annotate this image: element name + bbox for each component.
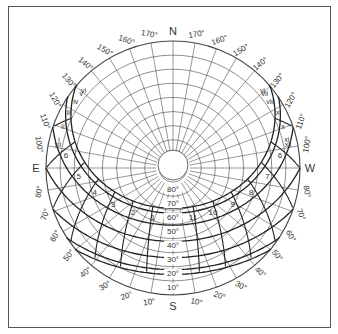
altitude-label: 40° [167, 241, 179, 250]
altitude-label: 50° [167, 227, 179, 236]
azimuth-label: 70° [39, 207, 52, 221]
month-label: ix [275, 109, 281, 116]
hour-label: 5 [76, 172, 81, 181]
azimuth-label: 170° [188, 28, 206, 40]
azimuth-label: 30° [98, 279, 113, 293]
azimuth-label: 130° [268, 71, 286, 89]
altitude-label: 30° [167, 255, 179, 264]
azimuth-label: 10° [143, 296, 156, 307]
azimuth-label: 60° [48, 229, 62, 244]
month-label: ii [61, 123, 65, 130]
south-label: S [169, 300, 176, 312]
azimuth-label: 50° [61, 248, 76, 263]
azimuth-label: 120° [47, 91, 63, 110]
azimuth-label: 80° [34, 185, 45, 198]
hour-label: 1 [151, 213, 156, 222]
month-label: x [281, 123, 285, 130]
altitude-label: 80° [167, 185, 179, 194]
altitude-label: 60° [167, 213, 179, 222]
hour-label: 10 [209, 208, 218, 217]
hour-label: 11 [189, 213, 198, 222]
hour-label: 2 [131, 208, 136, 217]
hour-label: 9 [230, 200, 235, 209]
month-label: iii [67, 109, 72, 116]
azimuth-label: 150° [232, 42, 251, 58]
sun-path-diagram: NSEW170°160°150°140°130°120°110°100°170°… [0, 0, 338, 334]
azimuth-label: 50° [270, 248, 285, 263]
north-label: N [169, 25, 177, 37]
hour-label: 3 [111, 200, 116, 209]
azimuth-label: 120° [283, 91, 299, 110]
azimuth-label: 80° [301, 185, 312, 198]
azimuth-label: 40° [78, 265, 93, 280]
azimuth-label: 170° [140, 28, 158, 40]
azimuth-label: 160° [210, 33, 229, 47]
azimuth-label: 110° [294, 112, 308, 130]
azimuth-label: 10° [190, 296, 203, 307]
azimuth-label: 100° [33, 135, 45, 153]
hour-label: 6 [64, 151, 69, 160]
hour-label: 7 [265, 172, 270, 181]
azimuth-label: 100° [301, 135, 313, 153]
azimuth-label: 20° [212, 289, 226, 302]
hour-label: 6 [278, 151, 283, 160]
hour-label: 8 [249, 188, 254, 197]
month-label: iv [73, 98, 79, 105]
east-label: E [32, 162, 39, 174]
azimuth-label: 40° [253, 265, 268, 280]
azimuth-label: 150° [96, 42, 115, 58]
month-label: viii [266, 98, 275, 105]
azimuth-label: 20° [119, 289, 133, 302]
altitude-label: 70° [167, 199, 179, 208]
altitude-label: 10° [167, 283, 179, 292]
month-label: vii [261, 90, 268, 97]
azimuth-label: 160° [117, 33, 136, 47]
west-label: W [305, 162, 316, 174]
azimuth-label: 60° [284, 229, 298, 244]
azimuth-label: 70° [294, 207, 307, 221]
azimuth-label: 30° [234, 279, 249, 293]
azimuth-label: 140° [251, 55, 269, 73]
zenith-circle [158, 150, 188, 180]
hour-label: 4 [93, 188, 98, 197]
month-label: v [80, 90, 84, 97]
month-label: xii [285, 141, 292, 148]
azimuth-label: 110° [38, 112, 52, 130]
altitude-label: 20° [167, 269, 179, 278]
month-label: xii [55, 141, 62, 148]
